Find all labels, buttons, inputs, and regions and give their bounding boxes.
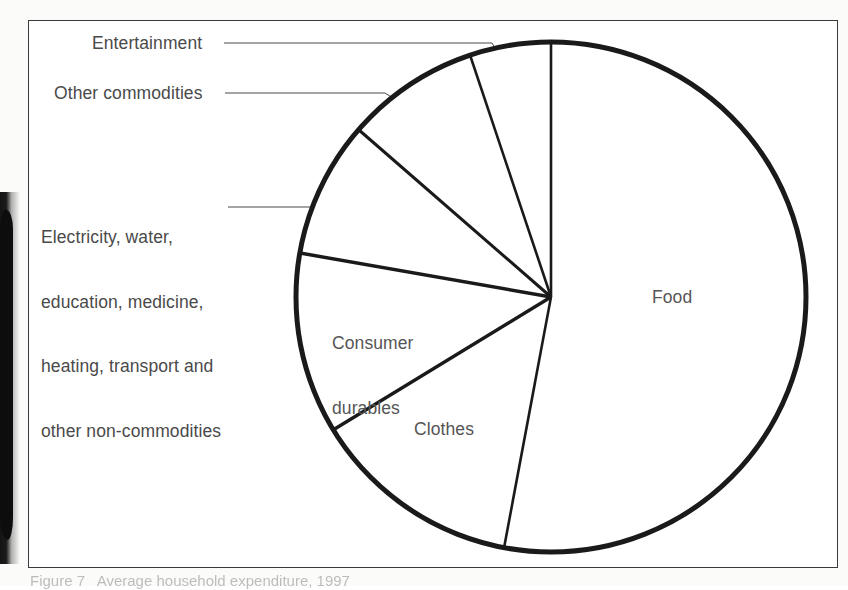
callout-label-other-commodities: Other commodities [54, 83, 203, 105]
callout-label-utilities-line-4: other non-commodities [41, 421, 221, 443]
callout-label-utilities-line-1: Electricity, water, [41, 227, 221, 249]
callout-label-utilities-line-3: heating, transport and [41, 356, 221, 378]
slice-label-clothes: Clothes [414, 419, 474, 441]
slice-label-consumer-durables: Consumer durables [332, 290, 414, 462]
slice-label-consumer-durables-line-1: Consumer [332, 333, 414, 355]
slice-label-food: Food [652, 287, 692, 309]
callout-label-entertainment: Entertainment [92, 33, 202, 55]
callout-label-utilities: Electricity, water, education, medicine,… [41, 184, 221, 485]
figure-caption: Figure 7 Average household expenditure, … [30, 572, 350, 590]
callout-label-utilities-line-2: education, medicine, [41, 292, 221, 314]
slice-label-consumer-durables-line-2: durables [332, 398, 414, 420]
